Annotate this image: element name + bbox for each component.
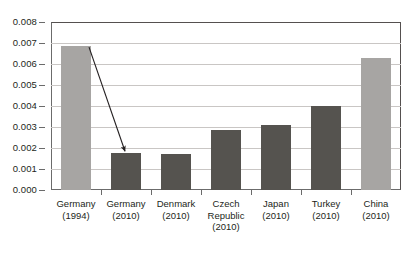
y-tick-mark — [39, 190, 45, 191]
x-tick-label-line: China — [347, 198, 405, 210]
bar — [261, 125, 291, 190]
y-tick-mark — [39, 148, 45, 149]
y-tick-label: 0.003 — [13, 122, 37, 132]
y-tick-label: 0.002 — [13, 143, 37, 153]
x-tick-mark — [101, 190, 102, 195]
x-axis: Germany(1994)Germany(2010)Denmark(2010)C… — [51, 190, 401, 258]
bar — [161, 154, 191, 190]
bar — [111, 153, 141, 190]
y-tick-label: 0.006 — [13, 59, 37, 69]
y-tick-mark — [39, 64, 45, 65]
x-tick-label-line: (2010) — [197, 221, 255, 233]
x-tick-mark — [151, 190, 152, 195]
y-tick-label: 0.000 — [13, 185, 37, 195]
bar — [61, 46, 91, 190]
y-tick-label: 0.005 — [13, 80, 37, 90]
y-axis: 0.0000.0010.0020.0030.0040.0050.0060.007… — [0, 0, 51, 258]
y-tick-label: 0.008 — [13, 17, 37, 27]
y-tick-mark — [39, 85, 45, 86]
y-tick-mark — [39, 169, 45, 170]
bar — [211, 130, 241, 190]
x-tick-label-line: (2010) — [347, 210, 405, 222]
bar-chart: 0.0000.0010.0020.0030.0040.0050.0060.007… — [0, 0, 418, 258]
y-tick-mark — [39, 127, 45, 128]
x-tick-mark — [201, 190, 202, 195]
bars-layer — [51, 22, 401, 190]
x-tick-mark — [301, 190, 302, 195]
y-tick-mark — [39, 43, 45, 44]
bar — [361, 58, 391, 190]
x-tick-mark — [251, 190, 252, 195]
y-tick-label: 0.007 — [13, 38, 37, 48]
y-tick-label: 0.001 — [13, 164, 37, 174]
y-tick-label: 0.004 — [13, 101, 37, 111]
x-tick-label: China(2010) — [347, 198, 405, 221]
bar — [311, 106, 341, 190]
y-tick-mark — [39, 106, 45, 107]
x-tick-mark — [351, 190, 352, 195]
y-tick-mark — [39, 22, 45, 23]
